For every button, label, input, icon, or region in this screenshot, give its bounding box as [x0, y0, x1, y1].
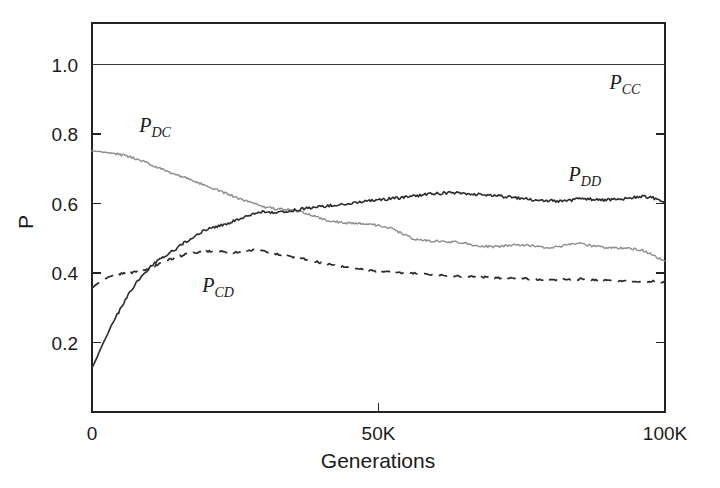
- series-label-p-dd: PDD: [568, 163, 601, 189]
- series-label-p-cc: PCC: [608, 71, 641, 97]
- x-axis-ticks: 050K100K: [87, 403, 688, 444]
- series-line-p-cd: [92, 249, 665, 288]
- series-label-p-dc: PDC: [138, 114, 171, 140]
- plot-frame: [92, 23, 665, 412]
- y-tick-label: 0.2: [52, 333, 78, 354]
- y-tick-label: 0.8: [52, 124, 78, 145]
- series-label-p-cd: PCD: [201, 274, 234, 300]
- probability-vs-generations-chart: 0.20.40.60.81.0 050K100K PCCPDDPDCPCD Ge…: [0, 0, 720, 488]
- y-axis-title: P: [14, 215, 37, 229]
- y-tick-label: 1.0: [52, 55, 78, 76]
- x-tick-label: 100K: [643, 423, 688, 444]
- x-tick-label: 50K: [362, 423, 396, 444]
- y-tick-label: 0.6: [52, 194, 78, 215]
- y-tick-label: 0.4: [52, 263, 79, 284]
- chart-figure: 0.20.40.60.81.0 050K100K PCCPDDPDCPCD Ge…: [0, 0, 720, 488]
- x-axis-title: Generations: [321, 449, 435, 472]
- x-tick-label: 0: [87, 423, 98, 444]
- chart-series-group: [92, 65, 665, 368]
- series-annotations: PCCPDDPDCPCD: [138, 71, 641, 300]
- y-axis-ticks: 0.20.40.60.81.0: [52, 55, 665, 354]
